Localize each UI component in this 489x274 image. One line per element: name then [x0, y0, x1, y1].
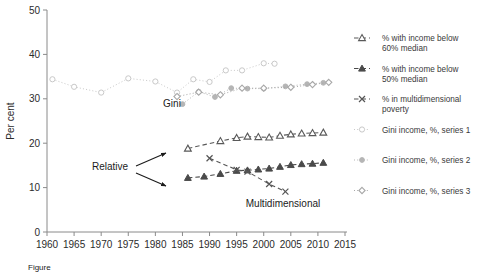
y-tick-label: 20 — [29, 138, 41, 149]
cross-marker-icon — [266, 181, 272, 187]
x-tick-label: 1985 — [171, 239, 194, 250]
open-circle-marker-icon — [223, 68, 228, 73]
series-4 — [184, 129, 326, 151]
filled-circle-marker-icon — [229, 86, 234, 91]
x-tick-label: 1970 — [90, 239, 113, 250]
y-tick-label: 30 — [29, 93, 41, 104]
diamond-marker-icon — [359, 187, 365, 193]
open-triangle-marker-icon — [233, 134, 240, 140]
filled-circle-marker-icon — [360, 158, 365, 163]
legend-item-6[interactable] — [354, 187, 370, 193]
open-circle-marker-icon — [261, 61, 266, 66]
open-circle-marker-icon — [191, 77, 196, 82]
y-tick-label: 40 — [29, 49, 41, 60]
filled-triangle-marker-icon — [320, 159, 327, 165]
filled-triangle-marker-icon — [255, 166, 262, 172]
legend-label: % with income below — [382, 65, 459, 74]
filled-circle-marker-icon — [283, 84, 288, 89]
y-tick-label: 10 — [29, 182, 41, 193]
legend-label-line2: 50% median — [382, 75, 428, 84]
filled-triangle-marker-icon — [217, 170, 224, 176]
legend-item-3[interactable] — [354, 96, 370, 102]
annotation-arrow-1 — [136, 153, 166, 166]
filled-triangle-marker-icon — [277, 163, 284, 169]
filled-triangle-marker-icon — [298, 161, 305, 167]
series-line — [182, 83, 323, 104]
open-circle-marker-icon — [126, 76, 131, 81]
y-tick-label: 0 — [34, 227, 40, 238]
diamond-marker-icon — [217, 92, 223, 98]
y-axis-title: Per cent — [5, 102, 16, 139]
diamond-marker-icon — [239, 85, 245, 91]
open-triangle-marker-icon — [277, 132, 284, 138]
legend-item-1[interactable] — [354, 35, 370, 41]
filled-circle-marker-icon — [305, 82, 310, 87]
x-tick-label: 2005 — [280, 239, 303, 250]
x-tick-label: 1995 — [226, 239, 249, 250]
legend-label: Gini income, %, series 2 — [382, 156, 471, 165]
x-tick-label: 1980 — [144, 239, 167, 250]
annotation-arrow-2 — [136, 173, 166, 186]
open-triangle-marker-icon — [320, 129, 327, 135]
y-tick-label: 50 — [29, 5, 41, 16]
open-circle-marker-icon — [99, 90, 104, 95]
annotation-relative: Relative — [92, 161, 129, 172]
filled-circle-marker-icon — [213, 95, 218, 100]
open-circle-marker-icon — [153, 79, 158, 84]
legend-item-5[interactable] — [354, 158, 370, 163]
open-circle-marker-icon — [359, 127, 364, 132]
series-2 — [180, 80, 326, 106]
x-tick-label: 2010 — [307, 239, 330, 250]
legend-item-2[interactable] — [354, 65, 370, 71]
series-5 — [184, 159, 326, 180]
legend-label: Gini income, %, series 1 — [382, 126, 471, 135]
annotation-multidimensional: Multidimensional — [246, 198, 320, 209]
cross-marker-icon — [207, 155, 213, 161]
diamond-marker-icon — [288, 84, 294, 90]
legend-label-line2: 60% median — [382, 44, 428, 53]
figure-caption: Figure — [28, 256, 51, 274]
legend-label: Gini income, %, series 3 — [382, 187, 471, 196]
legend-label: % with income below — [382, 34, 459, 43]
x-tick-label: 1975 — [117, 239, 140, 250]
diamond-marker-icon — [326, 79, 332, 85]
x-tick-label: 2015 — [334, 239, 357, 250]
x-tick-label: 1990 — [198, 239, 221, 250]
open-triangle-marker-icon — [217, 138, 224, 144]
open-circle-marker-icon — [50, 77, 55, 82]
open-triangle-marker-icon — [298, 130, 305, 136]
open-circle-marker-icon — [207, 79, 212, 84]
legend-label-line2: poverty — [382, 105, 410, 114]
open-circle-marker-icon — [272, 61, 277, 66]
x-tick-label: 1960 — [36, 239, 59, 250]
cross-marker-icon — [282, 189, 288, 195]
open-circle-marker-icon — [239, 68, 244, 73]
x-tick-label: 2000 — [253, 239, 276, 250]
open-circle-marker-icon — [71, 84, 76, 89]
filled-circle-marker-icon — [321, 80, 326, 85]
x-tick-label: 1965 — [63, 239, 86, 250]
legend-label: % in multidimensional — [382, 95, 461, 104]
legend-item-4[interactable] — [354, 127, 370, 132]
annotation-gini: Gini — [163, 98, 181, 109]
diamond-marker-icon — [309, 81, 315, 87]
